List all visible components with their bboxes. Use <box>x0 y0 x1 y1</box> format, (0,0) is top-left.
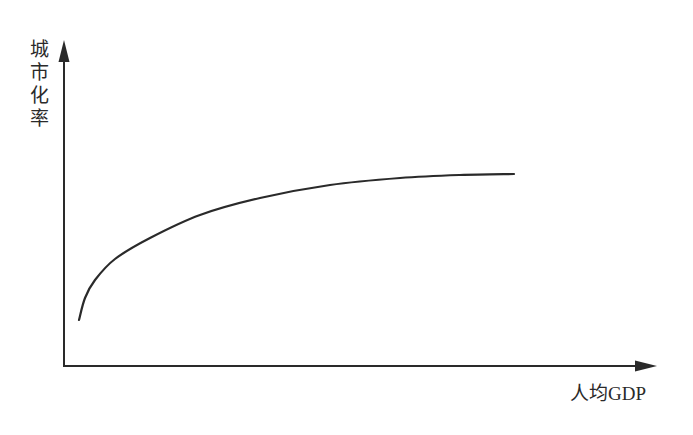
x-axis-label: 人均GDP <box>570 378 646 405</box>
y-label-char: 率 <box>28 107 50 130</box>
y-label-char: 化 <box>28 84 50 107</box>
y-axis-label: 城 市 化 率 <box>28 38 50 130</box>
y-label-char: 城 <box>28 38 50 61</box>
y-label-char: 市 <box>28 61 50 84</box>
y-axis-arrow-icon <box>59 40 70 62</box>
urbanization-curve <box>79 174 514 320</box>
x-axis-arrow-icon <box>635 361 657 372</box>
chart-canvas <box>0 0 693 435</box>
